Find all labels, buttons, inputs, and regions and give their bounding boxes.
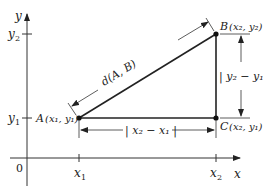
point-b-label: B (x₂, y₂) bbox=[219, 20, 263, 33]
vertical-label: | y₂ − y₁ bbox=[219, 70, 264, 84]
x1-tick-label: x 1 bbox=[74, 166, 86, 182]
svg-text:C: C bbox=[220, 120, 229, 133]
svg-text:(x₁, y₁): (x₁, y₁) bbox=[45, 113, 79, 124]
svg-text:2: 2 bbox=[15, 34, 20, 43]
y1-tick-label: y 1 bbox=[7, 111, 20, 127]
svg-text:1: 1 bbox=[81, 173, 86, 182]
origin-label: 0 bbox=[16, 162, 23, 175]
svg-text:B: B bbox=[219, 20, 228, 33]
svg-text:y: y bbox=[7, 111, 15, 125]
x-axis-label: x bbox=[234, 167, 241, 181]
hypotenuse-dimension: d(A, B) bbox=[68, 18, 214, 115]
point-c bbox=[213, 115, 218, 120]
horizontal-dimension: | x₂ − x₁ | bbox=[79, 120, 216, 138]
svg-text:1: 1 bbox=[15, 118, 20, 127]
vertical-dimension: | y₂ − y₁ bbox=[219, 34, 264, 118]
point-c-label: C (x₂, y₁) bbox=[220, 120, 263, 133]
diagram-canvas: y x 0 y 2 y 1 x 1 x 2 bbox=[0, 0, 266, 187]
horizontal-label: | x₂ − x₁ | bbox=[125, 124, 177, 138]
y2-tick-label: y 2 bbox=[7, 27, 20, 43]
svg-text:(x₂, y₁): (x₂, y₁) bbox=[229, 121, 263, 132]
svg-text:x: x bbox=[74, 166, 81, 180]
distance-diagram: y x 0 y 2 y 1 x 1 x 2 bbox=[0, 0, 266, 187]
svg-text:(x₂, y₂): (x₂, y₂) bbox=[229, 21, 263, 32]
y-axis-label: y bbox=[14, 9, 22, 23]
hypotenuse-label: d(A, B) bbox=[99, 57, 139, 88]
x2-tick-label: x 2 bbox=[210, 166, 222, 182]
svg-text:x: x bbox=[210, 166, 217, 180]
svg-text:y: y bbox=[7, 27, 15, 41]
svg-text:2: 2 bbox=[217, 173, 222, 182]
svg-text:A: A bbox=[35, 112, 44, 125]
point-b bbox=[213, 31, 218, 36]
point-a-label: A (x₁, y₁) bbox=[35, 112, 79, 125]
